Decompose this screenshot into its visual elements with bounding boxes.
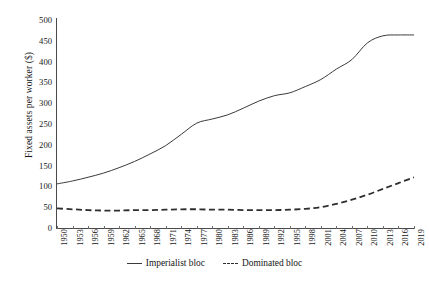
x-axis-tick-label: 1983 — [232, 229, 240, 246]
x-axis-tick-label: 1956 — [92, 229, 100, 246]
x-axis-tick-mark — [367, 226, 368, 229]
x-axis-tick-mark — [352, 226, 353, 229]
x-axis-tick-label: 1959 — [108, 229, 116, 246]
legend-swatch-solid — [127, 263, 142, 264]
x-axis-tick-mark — [243, 226, 244, 229]
x-axis-tick-mark — [336, 226, 337, 229]
x-axis-tick-label: 2016 — [402, 229, 410, 246]
x-axis-tick-label: 2004 — [340, 229, 348, 246]
x-axis-tick-mark — [73, 226, 74, 229]
x-axis-tick-mark — [383, 226, 384, 229]
x-axis-tick-mark — [212, 226, 213, 229]
y-axis-tick-label: 500 — [39, 16, 52, 25]
chart-figure: Fixed assets per worker ($) 050100150200… — [0, 0, 429, 281]
y-axis-tick-label: 150 — [39, 161, 52, 170]
x-axis-tick-mark — [57, 226, 58, 229]
series-line-dominated-bloc — [57, 177, 414, 210]
x-axis-tick-label: 1989 — [263, 229, 271, 246]
x-axis-tick-mark — [197, 226, 198, 229]
plot-area — [57, 20, 414, 228]
x-axis-tick-labels: 1950195319561959196219651968197119741977… — [57, 229, 414, 275]
y-axis-tick-label: 250 — [39, 120, 52, 129]
x-axis-tick-mark — [414, 226, 415, 229]
legend-label: Dominated bloc — [242, 258, 302, 268]
x-axis-tick-label: 2007 — [356, 229, 364, 246]
x-axis-tick-label: 1950 — [61, 229, 69, 246]
y-axis-tick-label: 200 — [39, 141, 52, 150]
x-axis-tick-label: 1965 — [139, 229, 147, 246]
x-axis-tick-mark — [88, 226, 89, 229]
legend-item: Dominated bloc — [223, 258, 302, 268]
x-axis-tick-label: 1962 — [123, 229, 131, 246]
x-axis-tick-mark — [119, 226, 120, 229]
x-axis-tick-label: 1992 — [278, 229, 286, 246]
y-axis-tick-label: 0 — [48, 224, 52, 233]
x-axis-tick-mark — [398, 226, 399, 229]
x-axis-tick-label: 1995 — [294, 229, 302, 246]
x-axis-tick-label: 1968 — [154, 229, 162, 246]
x-axis-tick-mark — [305, 226, 306, 229]
x-axis-tick-label: 1980 — [216, 229, 224, 246]
x-axis-tick-label: 1986 — [247, 229, 255, 246]
y-axis-tick-labels: 050100150200250300350400450500 — [22, 0, 52, 281]
x-axis-tick-mark — [228, 226, 229, 229]
y-axis-tick-label: 50 — [43, 203, 52, 212]
x-axis-tick-label: 1971 — [170, 229, 178, 246]
legend-item: Imperialist bloc — [127, 258, 205, 268]
x-axis-tick-mark — [104, 226, 105, 229]
y-axis-tick-label: 400 — [39, 57, 52, 66]
x-axis-tick-mark — [290, 226, 291, 229]
x-axis-tick-label: 1977 — [201, 229, 209, 246]
x-axis-tick-mark — [321, 226, 322, 229]
legend-label: Imperialist bloc — [146, 258, 205, 268]
x-axis-tick-label: 1998 — [309, 229, 317, 246]
x-axis-tick-mark — [150, 226, 151, 229]
x-axis-tick-label: 2001 — [325, 229, 333, 246]
x-axis-tick-mark — [259, 226, 260, 229]
x-axis-tick-mark — [274, 226, 275, 229]
x-axis-tick-mark — [135, 226, 136, 229]
x-axis-tick-label: 2013 — [387, 229, 395, 246]
x-axis-tick-label: 1974 — [185, 229, 193, 246]
series-line-imperialist-bloc — [57, 35, 414, 184]
x-axis-tick-mark — [181, 226, 182, 229]
y-axis-tick-label: 100 — [39, 182, 52, 191]
x-axis-tick-label: 2019 — [418, 229, 426, 246]
x-axis-tick-label: 1953 — [77, 229, 85, 246]
chart-legend: Imperialist blocDominated bloc — [0, 258, 429, 268]
y-axis-tick-label: 450 — [39, 37, 52, 46]
legend-swatch-dashed — [223, 263, 238, 264]
y-axis-tick-label: 300 — [39, 99, 52, 108]
x-axis-tick-label: 2010 — [371, 229, 379, 246]
y-axis-tick-label: 350 — [39, 78, 52, 87]
x-axis-tick-mark — [166, 226, 167, 229]
series-lines — [57, 20, 414, 228]
